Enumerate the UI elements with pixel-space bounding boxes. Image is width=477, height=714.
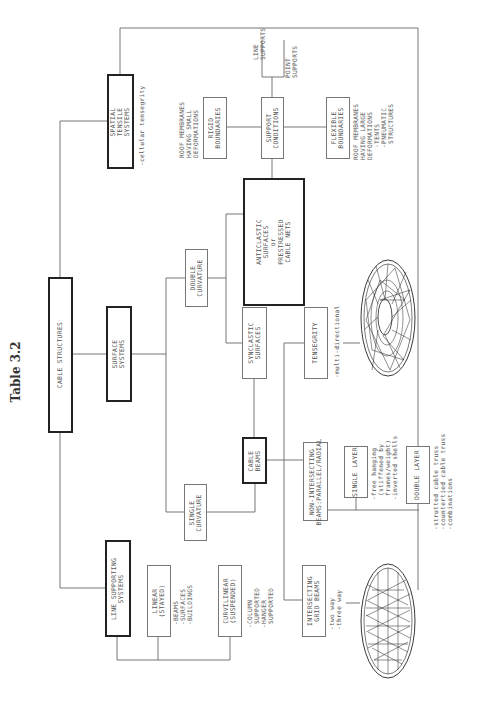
non-intersecting-beams-label: NON-INTERSECTING BEAMS:PARALLEL/RADIAL <box>308 438 322 525</box>
surface-systems-box: SURFACE SYSTEMS <box>106 306 132 402</box>
cable-structures-label: CABLE STRUCTURES <box>57 322 64 388</box>
single-curvature-box: SINGLE CURVATURE <box>184 484 207 541</box>
intersecting-grid-beams-label: INTERSECTING GRID BEAMS <box>307 576 321 626</box>
rigid-note: ROOF MEMBRANES HAVING SMALL DEFORMATIONS <box>178 102 199 158</box>
flexible-boundaries-box: FLEXIBLE BOUNDARIES <box>326 97 350 159</box>
flexible-boundaries-label: FLEXIBLE BOUNDARIES <box>331 107 345 148</box>
tensegrity-box: TENSEGRITY <box>304 307 328 379</box>
cable-beams-box: CABLE BEAMS <box>242 437 267 484</box>
line-supporting-systems-label: LINE SUPPORTING SYSTEMS <box>111 557 125 619</box>
double-layer-box: DOUBLE LAYER <box>406 446 430 504</box>
double-layer-label: DOUBLE LAYER <box>414 450 421 500</box>
single-layer-note: -free hanging (stiffened by frames/weigh… <box>370 436 398 500</box>
rigid-boundaries-box: RIGID BOUNDARIES <box>203 97 227 159</box>
intersecting-note: -two way -three way <box>328 590 342 630</box>
synclastic-surfaces-box: SYNCLASTIC SURFACES <box>242 307 267 379</box>
single-layer-box: SINGLE LAYER <box>344 446 368 498</box>
spatial-tensile-systems-label: SPATIAL TENSILE SYSTEMS <box>110 107 132 136</box>
linear-note: -BEAMS -SURFACES -BUILDINGS <box>172 585 193 625</box>
surface-systems-label: SURFACE SYSTEMS <box>112 339 126 368</box>
curvilinear-note: -COLUMN SUPPORTED -HANGER SUPPORTED <box>246 588 274 628</box>
grid-cable-net-illustration <box>361 564 415 678</box>
linear-stayed-box: LINEAR (STAYED) <box>147 565 171 637</box>
radial-cable-net-illustration <box>361 260 415 376</box>
non-intersecting-beams-box: NON-INTERSECTING BEAMS:PARALLEL/RADIAL <box>303 442 328 521</box>
support-conditions-box: SUPPORT CONDITIONS <box>261 97 284 159</box>
curvilinear-suspended-label: CURVILINEAR (SUSPENDED) <box>223 578 237 624</box>
rigid-boundaries-label: RIGID BOUNDARIES <box>208 107 222 148</box>
support-conditions-label: SUPPORT CONDITIONS <box>265 107 279 148</box>
line-supporting-systems-box: LINE SUPPORTING SYSTEMS <box>105 540 131 637</box>
flexible-note: ROOF MEMBRANES HAVING LARGE DEFORMATIONS… <box>352 104 394 160</box>
curvilinear-suspended-box: CURVILINEAR (SUSPENDED) <box>218 565 242 637</box>
double-curvature-box: DOUBLE CURVATURE <box>185 249 208 307</box>
double-layer-note: -strutted cable truss -countertied cable… <box>432 433 453 530</box>
cable-beams-label: CABLE BEAMS <box>247 450 261 471</box>
tensegrity-note: -multi-directional <box>333 306 340 378</box>
single-curvature-label: SINGLE CURVATURE <box>188 494 202 531</box>
spatial-tensile-systems-box: SPATIAL TENSILE SYSTEMS <box>107 74 134 169</box>
cable-structures-box: CABLE STRUCTURES <box>48 277 73 433</box>
table-title: Table 3.2 <box>9 341 23 402</box>
point-supports-label: POINT SUPPORTS <box>284 46 298 78</box>
double-curvature-label: DOUBLE CURVATURE <box>189 259 203 296</box>
tensegrity-label: TENSEGRITY <box>312 322 319 363</box>
line-supports-label: LINE SUPPORTS <box>252 28 266 60</box>
single-layer-label: SINGLE LAYER <box>352 447 359 497</box>
anticlastic-surfaces-box: ANTICLASTIC SURFACES or PRESTRESSED CABL… <box>243 178 305 306</box>
anticlastic-surfaces-label: ANTICLASTIC SURFACES or PRESTRESSED CABL… <box>256 219 292 265</box>
linear-stayed-label: LINEAR (STAYED) <box>152 584 166 617</box>
intersecting-grid-beams-box: INTERSECTING GRID BEAMS <box>302 565 326 637</box>
synclastic-surfaces-label: SYNCLASTIC SURFACES <box>247 322 261 363</box>
spatial-note: -cellular tensegrity <box>138 85 145 166</box>
diagram-canvas: Table 3.2 CABLE STRUCTURES SPATIAL TENSI… <box>0 0 477 714</box>
